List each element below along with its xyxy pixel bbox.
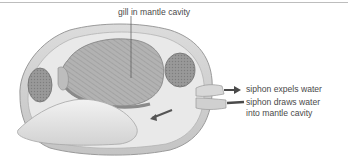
label-excurrent-siphon: siphon expels water — [246, 84, 322, 94]
label-incurrent-siphon-line2: into mantle cavity — [246, 108, 312, 118]
excurrent-arrowhead — [234, 86, 241, 94]
incurrent-arrow — [227, 102, 244, 103]
posterior-adductor-muscle — [165, 53, 195, 87]
anterior-adductor-muscle — [28, 68, 52, 102]
clam-illustration — [0, 0, 348, 162]
label-gill: gill in mantle cavity — [118, 7, 190, 17]
label-incurrent-siphon-line1: siphon draws water — [246, 97, 320, 107]
